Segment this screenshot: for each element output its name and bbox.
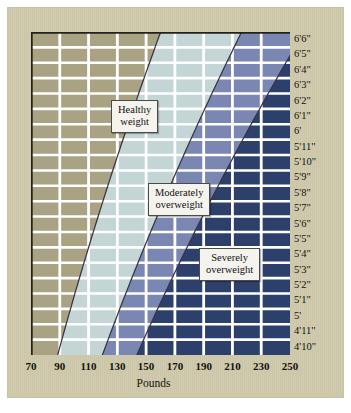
y-axis-tick-label: 6'1": [294, 108, 311, 123]
x-axis-title: Pounds: [0, 377, 351, 389]
callout-moderate-line2: overweight: [155, 199, 203, 211]
callout-moderately-overweight: Moderately overweight: [148, 183, 210, 216]
callout-healthy-line1: Healthy: [118, 104, 151, 116]
y-axis-tick-label: 5': [294, 308, 301, 323]
y-axis-tick-label: 4'10": [294, 339, 316, 354]
callout-moderate-line1: Moderately: [155, 187, 203, 199]
y-axis-tick-label: 5'7": [294, 200, 311, 215]
y-axis-tick-label: 6'2": [294, 93, 311, 108]
y-axis-tick-label: 5'2": [294, 277, 311, 292]
x-axis-tick-label: 250: [273, 360, 307, 372]
y-axis-tick-label: 5'3": [294, 262, 311, 277]
callout-severe-line2: overweight: [206, 264, 253, 276]
y-axis-tick-label: 5'9": [294, 169, 311, 184]
y-axis-tick-label: 6'3": [294, 77, 311, 92]
y-axis-tick-label: 6'6": [294, 31, 311, 46]
y-axis-tick-label: 4'11": [294, 323, 316, 338]
y-axis-tick-label: 5'6": [294, 216, 311, 231]
y-axis-tick-label: 5'4": [294, 246, 311, 261]
callout-healthy-weight: Healthy weight: [111, 100, 158, 133]
bmi-chart: 6'6"6'5"6'4"6'3"6'2"6'1"6'5'11"5'10"5'9"…: [0, 0, 351, 413]
x-axis-title-text: Pounds: [137, 377, 171, 389]
y-axis-tick-label: 5'11": [294, 139, 316, 154]
y-axis-tick-label: 6': [294, 123, 301, 138]
y-axis-tick-label: 5'1": [294, 292, 311, 307]
y-axis-tick-label: 6'4": [294, 62, 311, 77]
y-axis-tick-label: 6'5": [294, 46, 311, 61]
y-axis-tick-label: 5'5": [294, 231, 311, 246]
callout-healthy-line2: weight: [118, 116, 151, 128]
callout-severely-overweight: Severely overweight: [199, 248, 260, 281]
callout-severe-line1: Severely: [206, 252, 253, 264]
y-axis-tick-label: 5'8": [294, 185, 311, 200]
y-axis-tick-label: 5'10": [294, 154, 316, 169]
